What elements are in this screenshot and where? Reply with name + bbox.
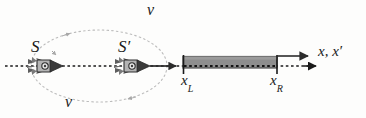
label-x-left: xL — [181, 73, 193, 91]
label-x-right-subscript: R — [277, 83, 283, 94]
physics-diagram-figure: S S′ v v xL xR x, x′ — [0, 0, 366, 118]
rocket-s-icon — [27, 57, 63, 75]
rocket-s-prime-icon — [114, 57, 150, 75]
label-frame-s: S — [31, 38, 40, 55]
diagram-canvas — [0, 0, 366, 118]
label-velocity-bottom: v — [65, 94, 72, 110]
label-x-right: xR — [270, 73, 283, 91]
label-frame-s-prime: S′ — [118, 38, 130, 55]
label-x-left-subscript: L — [188, 83, 194, 94]
label-x-right-base: x — [270, 72, 277, 88]
label-x-left-base: x — [181, 72, 188, 88]
s-frame-marker-arrow — [52, 51, 56, 55]
label-velocity-top: v — [147, 2, 154, 18]
label-axis-x-xprime: x, x′ — [318, 44, 342, 59]
